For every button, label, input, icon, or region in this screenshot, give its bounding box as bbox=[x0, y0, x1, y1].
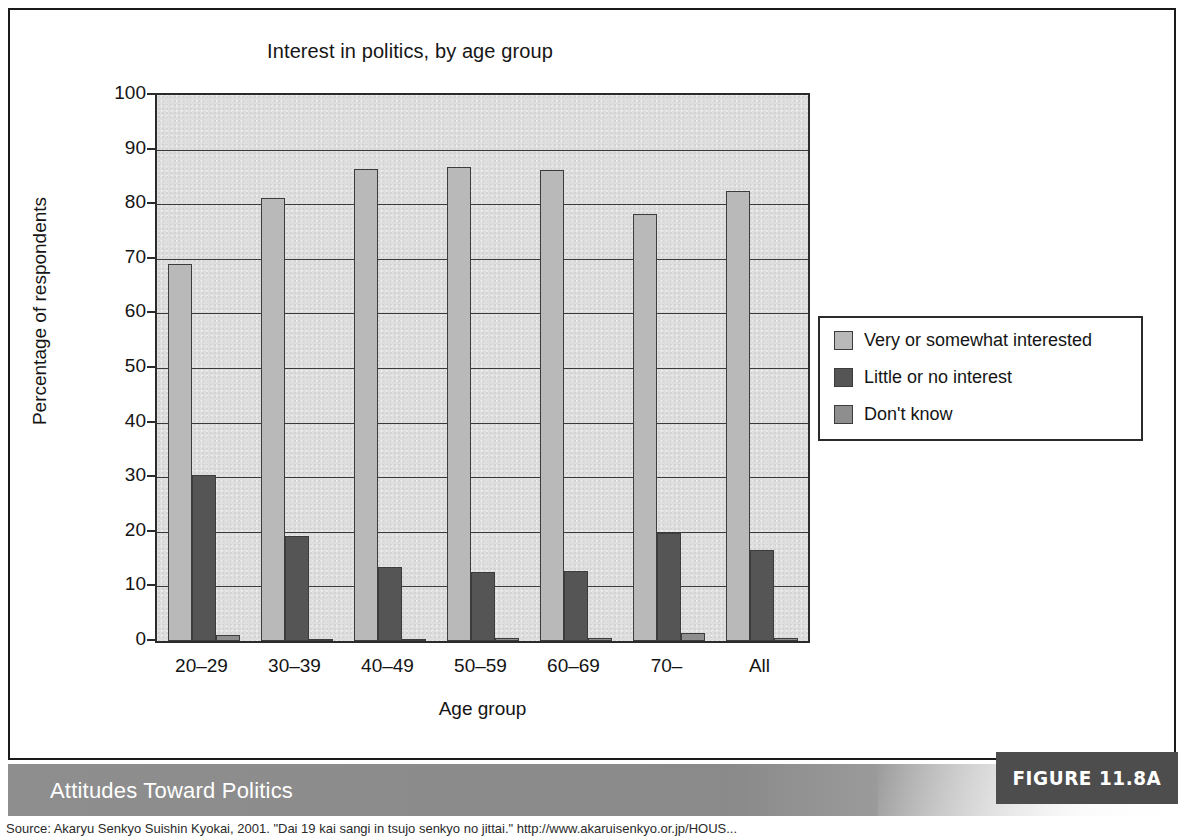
bar bbox=[495, 638, 519, 641]
x-tick-label: All bbox=[749, 655, 770, 677]
y-tick-label: 70 bbox=[94, 246, 146, 268]
y-tick-label: 40 bbox=[94, 410, 146, 432]
legend-item: Little or no interest bbox=[834, 367, 1127, 388]
y-tick-mark bbox=[147, 148, 155, 150]
legend-label: Don't know bbox=[864, 404, 952, 425]
legend-item: Very or somewhat interested bbox=[834, 330, 1127, 351]
bar bbox=[261, 198, 285, 641]
y-tick-mark bbox=[147, 257, 155, 259]
bar bbox=[216, 635, 240, 641]
y-tick-label: 20 bbox=[94, 519, 146, 541]
gridline bbox=[157, 313, 808, 314]
bar bbox=[309, 639, 333, 641]
figure-number-text: FIGURE 11.8A bbox=[1013, 766, 1162, 790]
y-tick-label: 90 bbox=[94, 137, 146, 159]
chart-title: Interest in politics, by age group bbox=[10, 40, 810, 63]
gridline bbox=[157, 204, 808, 205]
legend-label: Little or no interest bbox=[864, 367, 1012, 388]
gridline bbox=[157, 368, 808, 369]
bar bbox=[192, 475, 216, 641]
y-tick-mark bbox=[147, 530, 155, 532]
bar bbox=[657, 533, 681, 641]
y-tick-label: 60 bbox=[94, 300, 146, 322]
bar bbox=[354, 169, 378, 641]
figure-number-tag: FIGURE 11.8A bbox=[996, 752, 1178, 804]
y-tick-mark bbox=[147, 311, 155, 313]
x-axis-tick-labels: 20–2930–3940–4950–5960–6970–All bbox=[155, 655, 810, 685]
legend-swatch-icon bbox=[834, 331, 853, 350]
y-tick-mark bbox=[147, 202, 155, 204]
bar bbox=[447, 167, 471, 641]
x-tick-label: 30–39 bbox=[268, 655, 321, 677]
y-tick-mark bbox=[147, 366, 155, 368]
y-axis-label: Percentage of respondents bbox=[29, 81, 51, 541]
gridline bbox=[157, 532, 808, 533]
y-tick-mark bbox=[147, 639, 155, 641]
legend-item: Don't know bbox=[834, 404, 1127, 425]
x-tick-label: 50–59 bbox=[454, 655, 507, 677]
x-axis-label: Age group bbox=[155, 698, 810, 720]
chart-legend: Very or somewhat interestedLittle or no … bbox=[818, 316, 1143, 441]
y-tick-mark bbox=[147, 584, 155, 586]
banner-title: Attitudes Toward Politics bbox=[50, 778, 293, 804]
gridline bbox=[157, 477, 808, 478]
source-caption: Source: Akaryu Senkyo Suishin Kyokai, 20… bbox=[6, 821, 1186, 836]
bar bbox=[471, 572, 495, 641]
figure-frame: Interest in politics, by age group Perce… bbox=[8, 8, 1176, 760]
bar bbox=[774, 638, 798, 641]
x-tick-label: 40–49 bbox=[361, 655, 414, 677]
x-tick-label: 70– bbox=[651, 655, 683, 677]
bar bbox=[633, 214, 657, 641]
bar bbox=[540, 170, 564, 641]
bar bbox=[681, 633, 705, 641]
y-tick-label: 0 bbox=[94, 628, 146, 650]
y-tick-mark bbox=[147, 421, 155, 423]
plot-area bbox=[155, 93, 810, 643]
y-axis-tick-labels: 0102030405060708090100 bbox=[88, 93, 146, 643]
bar bbox=[750, 550, 774, 641]
y-tick-mark bbox=[147, 93, 155, 95]
gridline bbox=[157, 259, 808, 260]
gridline bbox=[157, 150, 808, 151]
legend-label: Very or somewhat interested bbox=[864, 330, 1092, 351]
y-tick-label: 80 bbox=[94, 191, 146, 213]
bar bbox=[378, 567, 402, 641]
bar bbox=[402, 639, 426, 641]
y-tick-label: 10 bbox=[94, 573, 146, 595]
bar bbox=[726, 191, 750, 641]
x-tick-label: 20–29 bbox=[175, 655, 228, 677]
legend-swatch-icon bbox=[834, 368, 853, 387]
y-tick-label: 100 bbox=[94, 82, 146, 104]
x-tick-label: 60–69 bbox=[547, 655, 600, 677]
bar bbox=[285, 536, 309, 641]
y-tick-mark bbox=[147, 475, 155, 477]
figure-page: Interest in politics, by age group Perce… bbox=[0, 0, 1186, 836]
bar bbox=[588, 638, 612, 641]
legend-swatch-icon bbox=[834, 405, 853, 424]
y-tick-label: 50 bbox=[94, 355, 146, 377]
gridline bbox=[157, 423, 808, 424]
y-tick-label: 30 bbox=[94, 464, 146, 486]
bar bbox=[168, 264, 192, 641]
bar bbox=[564, 571, 588, 641]
